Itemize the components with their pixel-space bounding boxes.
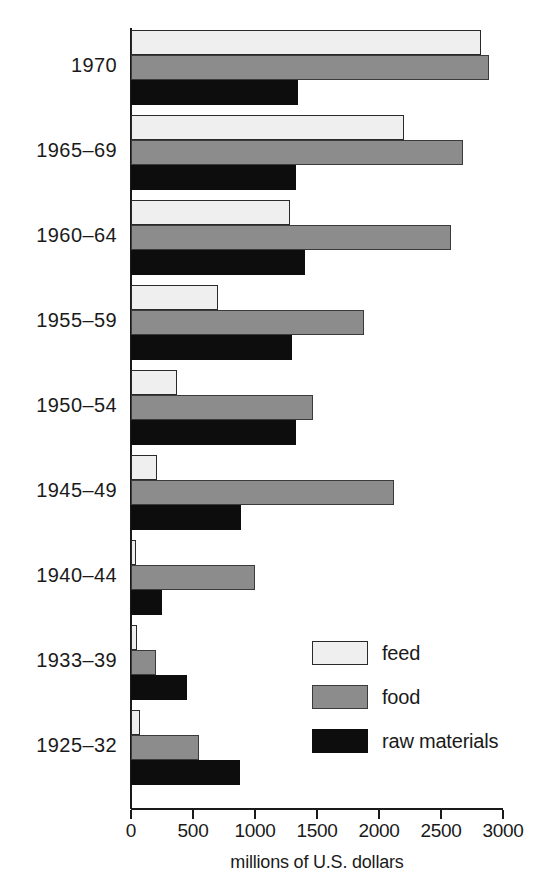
- x-tick-500: [192, 810, 194, 819]
- legend-item-feed: feed: [312, 636, 498, 670]
- x-tick-0: [130, 810, 132, 819]
- bar-1950-54-food: [131, 395, 313, 420]
- category-label-1925-32: 1925–32: [36, 734, 117, 757]
- bar-1945-49-raw-materials: [131, 505, 241, 530]
- x-tick-2500: [440, 810, 442, 819]
- category-label-1933-39: 1933–39: [36, 649, 117, 672]
- category-label-1970: 1970: [71, 54, 117, 77]
- category-label-1965-69: 1965–69: [36, 139, 117, 162]
- bar-1925-32-raw-materials: [131, 760, 240, 785]
- x-tick-label-1500: 1500: [296, 820, 337, 842]
- bar-1925-32-feed: [131, 710, 140, 735]
- bar-1925-32-food: [131, 735, 199, 760]
- legend: feed food raw materials: [312, 636, 498, 768]
- bar-1945-49-food: [131, 480, 394, 505]
- legend-label-feed: feed: [382, 642, 420, 665]
- x-tick-1000: [254, 810, 256, 819]
- x-tick-label-3000: 3000: [482, 820, 523, 842]
- x-axis-title: millions of U.S. dollars: [131, 852, 503, 873]
- category-label-1950-54: 1950–54: [36, 394, 117, 417]
- legend-swatch-feed-icon: [312, 641, 368, 665]
- bar-1940-44-feed: [131, 540, 136, 565]
- bar-1945-49-feed: [131, 455, 157, 480]
- bar-1960-64-food: [131, 225, 451, 250]
- legend-swatch-food-icon: [312, 685, 368, 709]
- bar-1933-39-food: [131, 650, 156, 675]
- bar-1965-69-feed: [131, 115, 404, 140]
- bar-1955-59-feed: [131, 285, 218, 310]
- category-label-1955-59: 1955–59: [36, 309, 117, 332]
- bar-1940-44-raw-materials: [131, 590, 162, 615]
- bar-1955-59-raw-materials: [131, 335, 292, 360]
- legend-item-raw-materials: raw materials: [312, 724, 498, 758]
- bar-1960-64-feed: [131, 200, 290, 225]
- x-tick-label-500: 500: [178, 820, 209, 842]
- bar-1970-food: [131, 55, 489, 80]
- bar-1970-feed: [131, 30, 481, 55]
- x-tick-3000: [502, 810, 504, 819]
- bar-1960-64-raw-materials: [131, 250, 305, 275]
- bar-1933-39-raw-materials: [131, 675, 187, 700]
- category-label-1945-49: 1945–49: [36, 479, 117, 502]
- legend-item-food: food: [312, 680, 498, 714]
- x-tick-label-0: 0: [126, 820, 136, 842]
- legend-swatch-raw-materials-icon: [312, 729, 368, 753]
- bar-1965-69-raw-materials: [131, 165, 296, 190]
- bar-1933-39-feed: [131, 625, 137, 650]
- x-tick-label-1000: 1000: [234, 820, 275, 842]
- bar-1950-54-raw-materials: [131, 420, 296, 445]
- bar-1970-raw-materials: [131, 80, 298, 105]
- category-label-1940-44: 1940–44: [36, 564, 117, 587]
- bar-1965-69-food: [131, 140, 463, 165]
- legend-label-raw-materials: raw materials: [382, 730, 498, 753]
- legend-label-food: food: [382, 686, 420, 709]
- x-tick-1500: [316, 810, 318, 819]
- x-tick-label-2500: 2500: [420, 820, 461, 842]
- category-label-1960-64: 1960–64: [36, 224, 117, 247]
- bar-chart: 050010001500200025003000 19701965–691960…: [0, 0, 549, 891]
- bar-1950-54-feed: [131, 370, 177, 395]
- x-tick-label-2000: 2000: [358, 820, 399, 842]
- bar-1955-59-food: [131, 310, 364, 335]
- x-tick-2000: [378, 810, 380, 819]
- bar-1940-44-food: [131, 565, 255, 590]
